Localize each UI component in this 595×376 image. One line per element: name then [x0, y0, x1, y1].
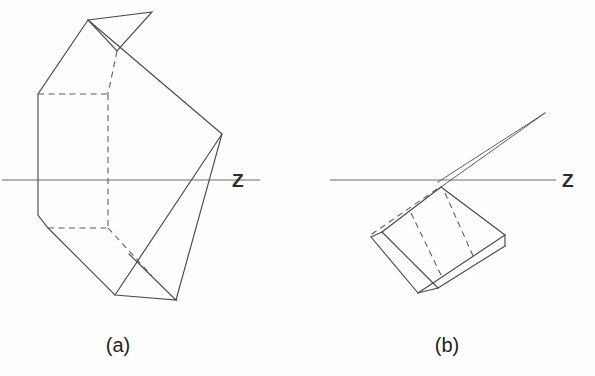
figure-root: Z (a) Z (b) [0, 0, 595, 376]
panel-a: Z (a) [2, 12, 260, 356]
figure-canvas: Z (a) Z (b) [0, 0, 595, 376]
panel-a-left-outline [38, 20, 176, 300]
panel-b-plate-top-right-edge [441, 187, 505, 235]
panel-b-plate-right-fold [418, 235, 505, 293]
panel-a-caption: (a) [106, 334, 130, 356]
panel-b-spike-lower-edge [441, 113, 545, 187]
panel-b-plate-bottom-left-edge [371, 237, 418, 293]
panel-b-spike-upper-edge [438, 113, 545, 182]
panel-b-hidden-right-rib [445, 193, 474, 258]
panel-a-z-axis-label: Z [232, 170, 244, 191]
panel-b: Z (b) [330, 113, 574, 356]
panel-b-plate-top-left-edge [382, 187, 441, 232]
panel-b-z-axis-label: Z [562, 170, 574, 191]
panel-a-top-fold-triangle [88, 12, 152, 51]
panel-a-hidden-lower-diagonal [108, 228, 152, 276]
panel-a-hidden-upper-diagonal [108, 51, 117, 94]
panel-b-plate-left-edge [371, 232, 382, 237]
panel-b-caption: (b) [435, 334, 459, 356]
panel-b-hidden-top-edge [369, 189, 437, 236]
panel-a-lower-diagonal [115, 134, 222, 295]
